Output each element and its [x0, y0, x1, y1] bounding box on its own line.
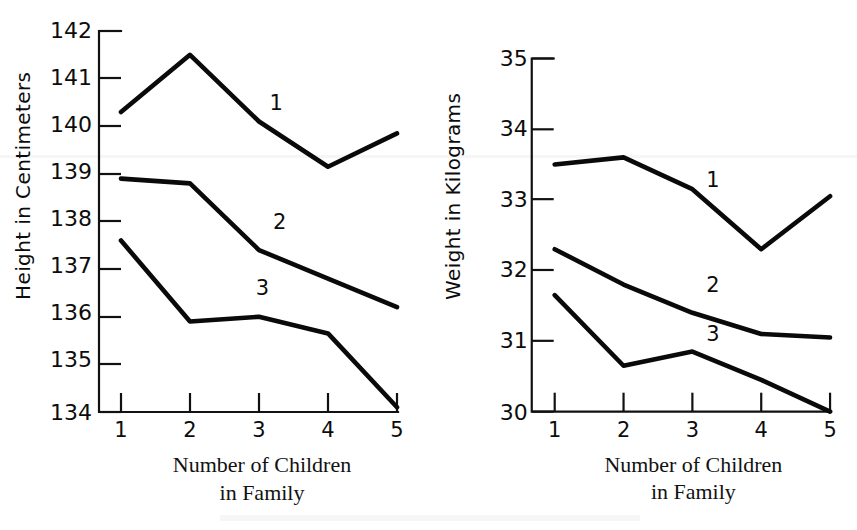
height-ytick-label: 139 — [50, 159, 92, 184]
weight-xaxis-title-line2: in Family — [651, 479, 736, 504]
height-ytick-marks — [99, 31, 121, 412]
height-ytick-label: 137 — [50, 253, 92, 278]
weight-yaxis-title: Weight in Kilograms — [441, 93, 465, 300]
figure-two-line-charts: Height in Centimeters 142 141 140 139 13… — [0, 0, 857, 530]
chart-panel-weight: Weight in Kilograms 35 34 33 32 31 30 — [428, 0, 856, 530]
height-xtick-label: 4 — [321, 418, 334, 442]
weight-xtick-label: 4 — [755, 418, 768, 442]
weight-xtick-label: 5 — [823, 418, 836, 442]
height-ytick-label: 141 — [50, 65, 92, 90]
height-series-1-label: 1 — [270, 91, 283, 115]
height-ytick-label: 136 — [50, 300, 92, 325]
height-xtick-label: 2 — [183, 418, 196, 442]
weight-ytick-label: 31 — [500, 328, 528, 353]
height-yaxis-title: Height in Centimeters — [11, 72, 35, 300]
height-series-3-label: 3 — [256, 276, 269, 300]
height-ytick-label: 142 — [50, 18, 92, 43]
weight-axis-lines — [532, 58, 831, 411]
height-xtick-label: 3 — [252, 418, 265, 442]
weight-ytick-label: 32 — [500, 257, 528, 282]
chart-panel-height: Height in Centimeters 142 141 140 139 13… — [0, 0, 428, 530]
weight-xtick-marks — [555, 393, 830, 412]
height-xtick-label: 5 — [390, 418, 403, 442]
weight-ytick-label: 30 — [500, 400, 528, 425]
height-ytick-label: 134 — [50, 400, 92, 425]
weight-series-2-line — [555, 249, 830, 337]
height-xtick-marks — [121, 393, 397, 412]
weight-series-1-line — [555, 157, 830, 249]
weight-xaxis-title-line1: Number of Children — [604, 452, 782, 477]
height-series-3-line — [121, 241, 397, 408]
height-chart-svg: Height in Centimeters 142 141 140 139 13… — [0, 0, 428, 530]
height-ytick-label: 135 — [50, 347, 92, 372]
weight-series-1-label: 1 — [706, 168, 719, 192]
weight-xtick-label: 1 — [548, 418, 561, 442]
height-series-2-label: 2 — [273, 210, 286, 234]
height-ytick-label: 140 — [50, 112, 92, 137]
height-series-1-line — [121, 55, 397, 167]
height-xaxis-title-line2: in Family — [220, 480, 305, 505]
weight-xtick-label: 2 — [617, 418, 630, 442]
weight-ytick-label: 34 — [500, 116, 528, 141]
height-xtick-label: 1 — [114, 418, 127, 442]
weight-ytick-marks — [532, 58, 554, 411]
height-ytick-label: 138 — [50, 206, 92, 231]
weight-series-3-label: 3 — [706, 322, 719, 346]
weight-chart-svg: Weight in Kilograms 35 34 33 32 31 30 — [428, 0, 856, 530]
height-axis-lines — [99, 31, 398, 412]
weight-series-2-label: 2 — [706, 273, 719, 297]
weight-ytick-label: 35 — [500, 46, 528, 71]
weight-xtick-label: 3 — [686, 418, 699, 442]
height-xaxis-title-line1: Number of Children — [173, 452, 351, 477]
weight-ytick-label: 33 — [500, 187, 528, 212]
